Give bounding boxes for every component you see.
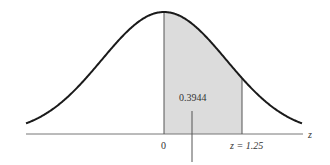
mean-label: 0 — [161, 140, 166, 151]
shaded-area — [164, 12, 242, 134]
area-label: 0.3944 — [179, 92, 207, 103]
z-value-label: z = 1.25 — [229, 140, 263, 151]
axis-label: z — [307, 129, 312, 140]
normal-curve-diagram: 0.3944 0 z = 1.25 z — [0, 0, 330, 165]
